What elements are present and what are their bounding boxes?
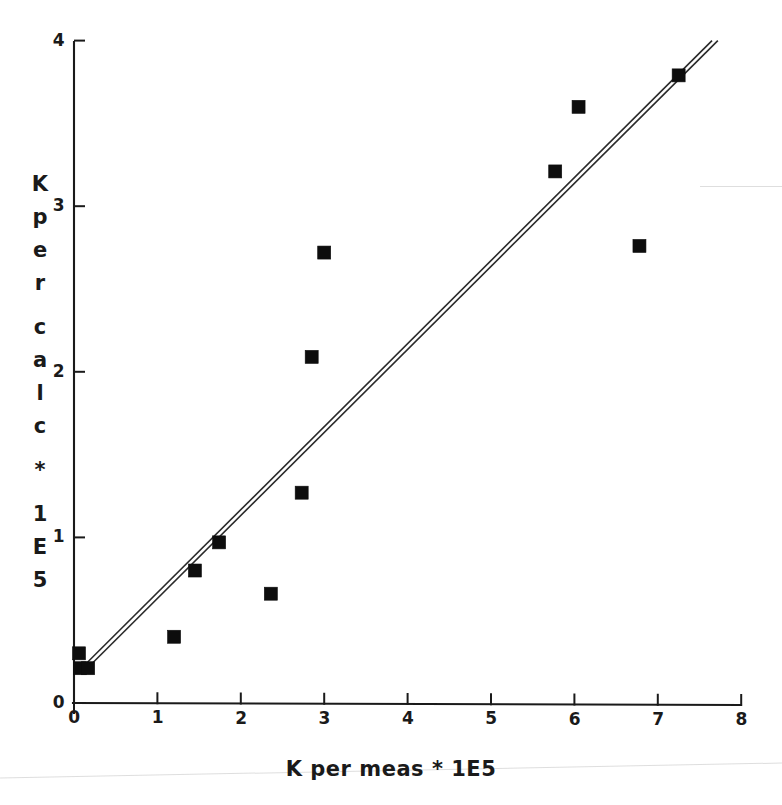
y-tick-label-4: 4 <box>42 32 64 49</box>
y-axis-title: Kpercalc*1E5 <box>27 168 53 597</box>
data-point <box>633 239 646 252</box>
y-axis-title-char: K <box>32 168 48 201</box>
y-axis-title-char: 1 <box>33 498 48 531</box>
y-axis-title-char: c <box>34 311 46 344</box>
x-tick-label-1: 1 <box>147 709 167 726</box>
y-tick-label-0: 0 <box>42 694 64 711</box>
y-axis-title-char: r <box>35 267 45 300</box>
data-point <box>82 662 95 675</box>
x-tick-label-5: 5 <box>481 710 501 727</box>
data-point <box>188 564 201 577</box>
data-point <box>572 100 585 113</box>
data-point <box>168 630 181 643</box>
scan-artifact-top <box>700 186 782 187</box>
x-tick-label-4: 4 <box>398 710 418 727</box>
x-tick-label-0: 0 <box>64 709 84 726</box>
axes-group <box>73 42 741 705</box>
y-axis-title-char: * <box>35 454 46 487</box>
identity-line-lower <box>84 41 718 672</box>
x-tick-label-7: 7 <box>648 711 668 728</box>
y-axis-title-char: 5 <box>33 564 48 597</box>
identity-line-upper <box>78 41 712 672</box>
y-axis-title-char: E <box>33 531 47 564</box>
y-axis-ticks <box>74 41 85 703</box>
data-point <box>318 246 331 259</box>
y-axis-title-char: e <box>33 234 47 267</box>
y-axis-title-char: c <box>34 410 46 443</box>
y-axis-title-char: a <box>33 344 47 377</box>
x-tick-label-6: 6 <box>564 711 584 728</box>
y-axis-title-char: l <box>36 377 43 410</box>
plot-canvas <box>0 0 782 805</box>
data-point <box>549 165 562 178</box>
data-point <box>73 647 86 660</box>
data-point <box>213 536 226 549</box>
data-point <box>264 587 277 600</box>
data-point <box>305 350 318 363</box>
data-point <box>672 69 685 82</box>
x-tick-label-3: 3 <box>314 710 334 727</box>
x-tick-label-8: 8 <box>731 711 751 728</box>
y-axis-title-char: p <box>32 201 47 234</box>
reference-lines-group <box>78 41 718 672</box>
x-axis-title: K per meas * 1E5 <box>0 757 782 781</box>
scatter-plot-figure: 01234 012345678 Kpercalc*1E5 K per meas … <box>0 0 782 805</box>
data-point <box>295 486 308 499</box>
x-tick-label-2: 2 <box>231 710 251 727</box>
